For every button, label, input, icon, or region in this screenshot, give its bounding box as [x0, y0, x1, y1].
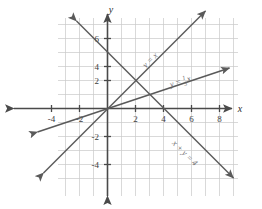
y-tick-label: 2	[95, 76, 100, 86]
coordinate-plane-graph: -4 -2 2 4 6 8 -4 -2 2 4 6 x y y = x y = …	[0, 0, 262, 209]
equation-label-x-plus-y-equals-4: x + y = 4	[170, 137, 201, 168]
x-tick-label: -4	[48, 114, 56, 124]
axes	[14, 14, 232, 196]
y-tick-label: 4	[95, 62, 100, 72]
line-x-plus-y-equals-4	[77, 21, 234, 178]
x-tick-label: 4	[161, 114, 166, 124]
x-axis-label: x	[237, 103, 243, 114]
y-axis-label: y	[108, 4, 114, 15]
graph-svg: -4 -2 2 4 6 8 -4 -2 2 4 6 x y y = x y = …	[0, 0, 262, 209]
y-tick-labels: -4 -2 2 4 6	[92, 34, 100, 170]
x-tick-label: 8	[217, 114, 222, 124]
y-tick-label: -2	[92, 132, 100, 142]
gridlines	[58, 18, 238, 196]
y-tick-label: -4	[92, 160, 100, 170]
equation-label-y-equals-one-third-x: y = 13x	[167, 73, 192, 91]
x-tick-label: 2	[133, 114, 138, 124]
x-tick-label: 6	[189, 114, 194, 124]
